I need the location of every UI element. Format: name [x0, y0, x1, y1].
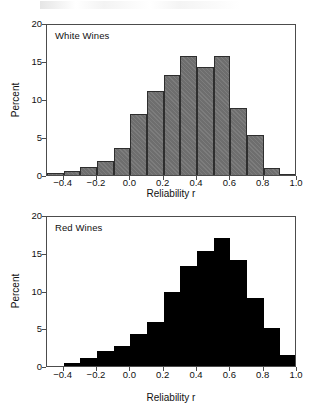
- x-axis-tick-label: 0.2: [156, 370, 169, 380]
- y-axis-tick-label: 15: [16, 57, 42, 67]
- histogram-bar: [280, 355, 295, 366]
- histogram-bar: [64, 171, 81, 175]
- plot-frame-red: Red Wines: [46, 216, 296, 367]
- x-axis-tick-label: 0.0: [123, 178, 136, 188]
- x-axis-tick-label: −0.2: [87, 178, 106, 188]
- histogram-bar: [180, 56, 197, 175]
- x-axis-tick-label: 0.4: [189, 370, 202, 380]
- histogram-bar: [147, 91, 164, 175]
- histogram-bar: [147, 322, 164, 366]
- x-axis-tick-label: 0.4: [189, 178, 202, 188]
- x-axis-tick-label: 0.8: [256, 178, 269, 188]
- y-axis-tick: [42, 367, 46, 368]
- y-axis-tick-label: 20: [16, 211, 42, 221]
- y-axis-tick-label: 0: [16, 362, 42, 372]
- histogram-bar: [130, 114, 147, 175]
- panel-white-wines: Percent White Wines −0.4−0.20.00.20.40.6…: [0, 0, 318, 200]
- y-axis-tick-label: 0: [16, 171, 42, 181]
- y-axis-tick: [42, 176, 46, 177]
- x-axis-tick-label: 0.2: [156, 178, 169, 188]
- y-axis-tick-label: 10: [16, 95, 42, 105]
- histogram-bar: [164, 75, 181, 175]
- bars-red: [47, 217, 295, 366]
- x-axis-tick-label: 1.0: [289, 370, 302, 380]
- histogram-bar: [214, 56, 231, 175]
- y-axis-tick-label: 15: [16, 249, 42, 259]
- y-axis-tick-label: 5: [16, 324, 42, 334]
- bars-white: [47, 25, 295, 175]
- histogram-bar: [197, 67, 214, 175]
- histogram-bar: [97, 351, 114, 366]
- x-axis-tick-label: 0.6: [223, 370, 236, 380]
- histogram-bar: [130, 334, 147, 366]
- histogram-bar: [114, 346, 131, 366]
- x-axis-tick-label: −0.2: [87, 370, 106, 380]
- histogram-bar: [214, 238, 231, 366]
- y-axis-tick: [42, 292, 46, 293]
- panel-red-wines: Percent Red Wines −0.4−0.20.00.20.40.60.…: [0, 196, 318, 410]
- y-axis-tick-label: 5: [16, 133, 42, 143]
- y-axis-tick: [42, 62, 46, 63]
- histogram-bar: [264, 168, 281, 175]
- y-axis-tick: [42, 24, 46, 25]
- x-axis-title-red: Reliability r: [46, 392, 296, 404]
- histogram-bar: [114, 148, 131, 175]
- figure-page: Percent White Wines −0.4−0.20.00.20.40.6…: [0, 0, 318, 410]
- histogram-bar: [247, 298, 264, 366]
- histogram-bar: [64, 363, 81, 366]
- histogram-bar: [197, 251, 214, 366]
- y-axis-tick-label: 20: [16, 19, 42, 29]
- x-axis-tick-label: 0.0: [123, 370, 136, 380]
- histogram-bar: [264, 328, 281, 366]
- histogram-bar: [280, 174, 295, 175]
- x-axis-tick-label: 1.0: [289, 178, 302, 188]
- histogram-bar: [247, 135, 264, 175]
- histogram-bar: [80, 167, 97, 175]
- y-axis-tick: [42, 216, 46, 217]
- histogram-bar: [164, 292, 181, 366]
- y-axis-tick-label: 10: [16, 287, 42, 297]
- y-axis-tick: [42, 100, 46, 101]
- x-axis-tick-label: −0.4: [53, 370, 72, 380]
- x-axis-tick-label: −0.4: [53, 178, 72, 188]
- x-axis-tick-label: 0.8: [256, 370, 269, 380]
- y-axis-tick: [42, 254, 46, 255]
- histogram-bar: [230, 260, 247, 366]
- histogram-bar: [180, 266, 197, 366]
- histogram-bar: [97, 161, 114, 175]
- x-axis-tick-label: 0.6: [223, 178, 236, 188]
- y-axis-tick: [42, 329, 46, 330]
- plot-frame-white: White Wines: [46, 24, 296, 176]
- y-axis-tick: [42, 138, 46, 139]
- histogram-bar: [47, 173, 64, 175]
- histogram-bar: [230, 108, 247, 175]
- histogram-bar: [80, 358, 97, 366]
